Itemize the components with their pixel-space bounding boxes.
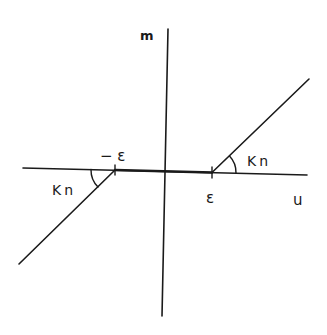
slope-label-left: Kn <box>52 182 76 198</box>
slope-label-right: Kn <box>247 153 271 169</box>
m-axis-label: m <box>140 28 154 43</box>
neg-epsilon-label: − ε <box>100 147 125 165</box>
right-angle-arc <box>230 156 237 173</box>
left-angle-arc <box>91 170 98 188</box>
u-axis-label: u <box>293 191 303 209</box>
dead-zone-segment <box>115 170 212 173</box>
pos-epsilon-label: ε <box>206 189 214 207</box>
dead-zone-diagram: m u − ε ε Kn Kn <box>0 0 327 335</box>
